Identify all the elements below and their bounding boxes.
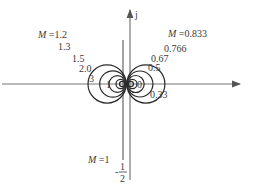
label-m-0-833: M =0.833: [167, 28, 207, 39]
label-m-3: 3: [89, 73, 94, 84]
constant-m-circles-diagram: j M =1.2 1.3 1.5 2.0 3 1 M =0.833 0.766 …: [0, 0, 254, 185]
label-m-0-5: 0.5: [148, 62, 161, 73]
m1-value-sign: -: [115, 166, 118, 177]
imag-axis-label: j: [134, 9, 138, 20]
label-center-1: 1: [106, 79, 111, 90]
label-m-1-2: M =1.2: [37, 29, 67, 40]
m1-value-numerator: 1: [120, 161, 125, 172]
label-m-1-3: 1.3: [58, 41, 71, 52]
m1-value-denominator: 2: [120, 173, 125, 184]
label-m1: M =1: [87, 154, 109, 165]
label-center-0: 0: [137, 79, 142, 90]
label-m-0-33: 0.33: [150, 89, 168, 100]
